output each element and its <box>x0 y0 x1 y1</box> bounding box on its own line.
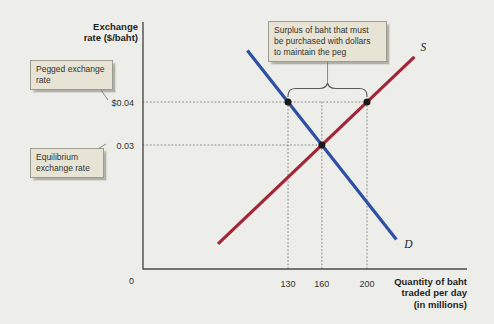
origin-label: 0 <box>120 276 134 286</box>
y-tick-label: 0.03 <box>116 141 134 151</box>
data-point <box>364 99 371 106</box>
x-axis-title-line: (in millions) <box>394 299 467 310</box>
exchange-rate-figure: SD130160200$0.040.03 Exchange rate ($/ba… <box>0 0 494 324</box>
pegged-rate-callout-line: Pegged exchange <box>36 64 107 75</box>
surplus-callout-line: to maintain the peg <box>274 47 381 58</box>
y-axis-title-line: Exchange <box>84 21 138 32</box>
x-tick-label: 130 <box>281 279 296 289</box>
supply-curve-label: S <box>420 41 426 53</box>
equilibrium-rate-callout: Equilibrium exchange rate <box>30 148 104 178</box>
surplus-callout-line: Surplus of baht that must <box>274 25 381 36</box>
y-axis-title: Exchange rate ($/baht) <box>84 21 138 44</box>
x-tick-label: 200 <box>360 279 375 289</box>
equilibrium-rate-callout-line: exchange rate <box>36 163 98 174</box>
x-axis-title-line: Quantity of baht <box>394 276 467 287</box>
pegged-rate-callout-line: rate <box>36 75 107 86</box>
demand-curve-label: D <box>403 238 413 250</box>
y-tick-label: $0.04 <box>111 98 134 108</box>
supply-curve <box>218 57 414 244</box>
y-axis-title-line: rate ($/baht) <box>84 32 138 43</box>
surplus-brace <box>288 83 367 97</box>
data-point <box>318 142 325 149</box>
pegged-rate-callout: Pegged exchange rate <box>30 60 113 90</box>
equilibrium-rate-callout-line: Equilibrium <box>36 152 98 163</box>
data-point <box>285 99 292 106</box>
surplus-callout: Surplus of baht that must be purchased w… <box>268 21 387 62</box>
x-axis-title: Quantity of baht traded per day (in mill… <box>394 276 467 310</box>
x-axis-title-line: traded per day <box>394 287 467 298</box>
surplus-callout-line: be purchased with dollars <box>274 36 381 47</box>
x-tick-label: 160 <box>314 279 329 289</box>
